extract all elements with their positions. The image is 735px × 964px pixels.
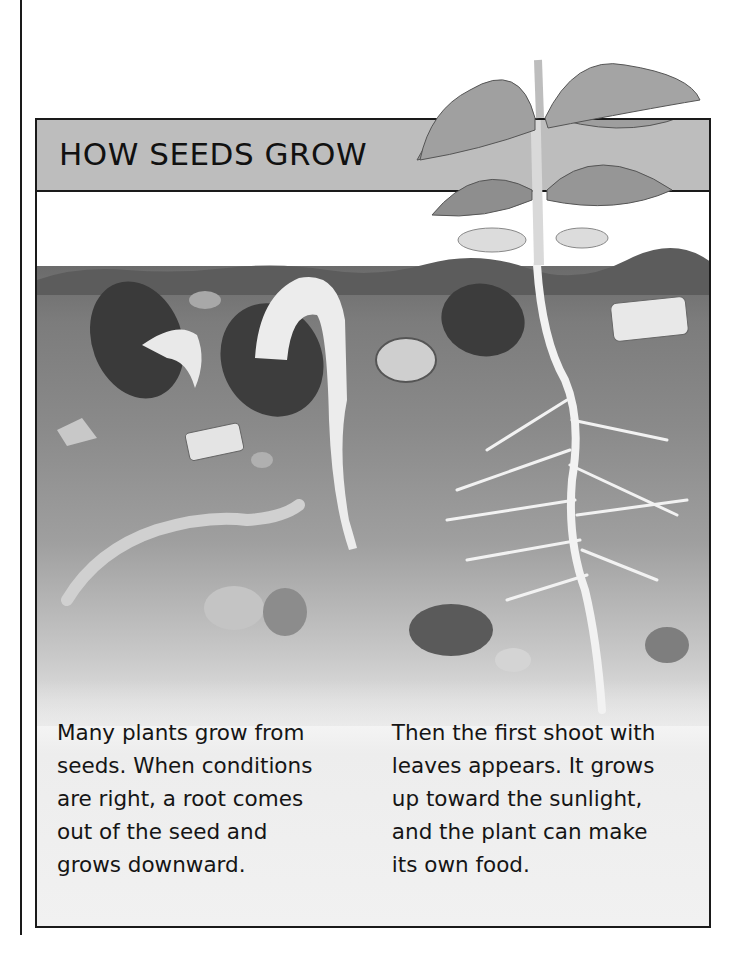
stone-icon [251, 452, 273, 468]
caption-right: Then the first shoot with leaves appears… [392, 716, 689, 881]
stone-icon [263, 588, 307, 636]
caption-left: Many plants grow from seeds. When condit… [57, 716, 392, 881]
caption-line: seeds. When conditions [57, 749, 392, 782]
caption-line: its own food. [392, 848, 689, 881]
pottery-shard-icon [610, 296, 689, 342]
leaf-icon [420, 80, 535, 160]
stone-icon [204, 586, 264, 630]
overhanging-leaves [0, 0, 735, 200]
plant-stem-icon [538, 60, 540, 118]
stone-icon [189, 291, 221, 309]
caption-line: grows downward. [57, 848, 392, 881]
earthworm-icon [67, 505, 299, 600]
caption-line: Then the first shoot with [392, 716, 689, 749]
caption-line: out of the seed and [57, 815, 392, 848]
caption-line: are right, a root comes [57, 782, 392, 815]
illustration-panel: HOW SEEDS GROW [35, 118, 711, 928]
seed-leaf-icon [556, 228, 608, 248]
captions: Many plants grow from seeds. When condit… [57, 716, 689, 881]
stone-icon [495, 648, 531, 672]
pottery-shard-icon [185, 422, 245, 461]
caption-line: leaves appears. It grows [392, 749, 689, 782]
stone-icon [57, 418, 97, 446]
leaf-icon [545, 64, 700, 128]
dark-stone-icon [409, 604, 493, 656]
caption-line: up toward the sunlight, [392, 782, 689, 815]
seed-leaf-icon [458, 228, 526, 252]
caption-line: Many plants grow from [57, 716, 392, 749]
striped-stone-icon [376, 338, 436, 382]
caption-line: and the plant can make [392, 815, 689, 848]
stone-icon [645, 627, 689, 663]
